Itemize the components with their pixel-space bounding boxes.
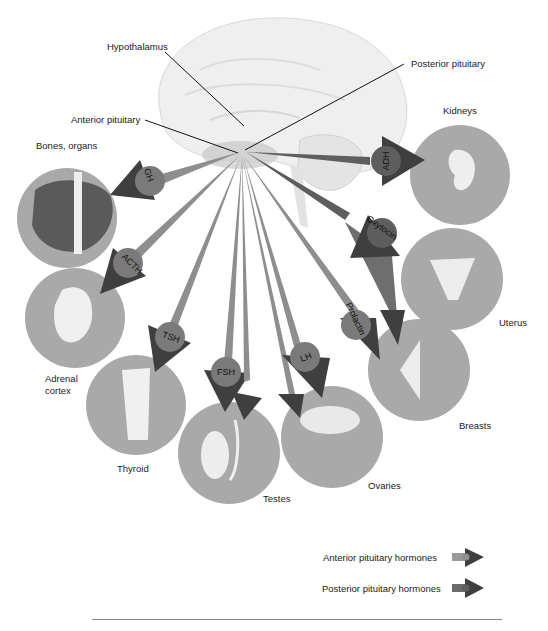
pituitary-hormone-diagram: GH ACTH TSH FSH LH Prolactin Oxytocin AD… (0, 0, 548, 631)
label-uterus: Uterus (499, 317, 527, 328)
hormone-fsh: FSH (217, 367, 235, 377)
legend-posterior-label: Posterior pituitary hormones (322, 583, 441, 594)
anterior-arrow-icon (452, 548, 484, 567)
hormone-adh: ADH (381, 151, 391, 170)
circle-testes (178, 402, 280, 504)
label-bones-organs: Bones, organs (36, 140, 98, 151)
label-adrenal: Adrenal (45, 373, 78, 384)
label-testes: Testes (263, 493, 291, 504)
posterior-arrow-icon (452, 578, 484, 598)
label-kidneys: Kidneys (443, 105, 477, 116)
label-breasts: Breasts (459, 420, 491, 431)
label-adrenal-cortex: cortex (45, 385, 71, 396)
bottom-divider (92, 619, 502, 620)
label-anterior-pituitary: Anterior pituitary (71, 114, 140, 125)
label-thyroid: Thyroid (117, 463, 149, 474)
label-ovaries: Ovaries (368, 480, 401, 491)
label-posterior-pituitary: Posterior pituitary (411, 58, 485, 69)
legend-anterior-label: Anterior pituitary hormones (323, 552, 437, 563)
legend-arrows (452, 548, 484, 598)
label-hypothalamus: Hypothalamus (107, 41, 168, 52)
